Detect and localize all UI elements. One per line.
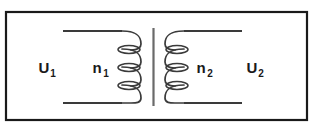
secondary-turns-label: n 2 (196, 59, 213, 79)
primary-winding-coil (122, 31, 141, 103)
secondary-turns-symbol: n (196, 59, 205, 76)
primary-turns-subscript: 1 (103, 68, 109, 79)
primary-voltage-subscript: 1 (50, 68, 56, 79)
primary-voltage-label: U 1 (39, 59, 57, 79)
primary-circuit (63, 31, 141, 103)
primary-voltage-symbol: U (39, 59, 50, 76)
secondary-voltage-label: U 2 (247, 59, 265, 79)
secondary-winding-coil (165, 31, 184, 103)
diagram-frame (6, 12, 307, 120)
secondary-voltage-symbol: U (247, 59, 258, 76)
secondary-voltage-subscript: 2 (258, 68, 264, 79)
secondary-turns-subscript: 2 (207, 68, 213, 79)
transformer-diagram: U 1 n 1 n 2 U 2 (0, 0, 313, 134)
diagram-canvas: U 1 n 1 n 2 U 2 (0, 0, 313, 134)
primary-turns-symbol: n (92, 59, 101, 76)
primary-turns-label: n 1 (92, 59, 109, 79)
